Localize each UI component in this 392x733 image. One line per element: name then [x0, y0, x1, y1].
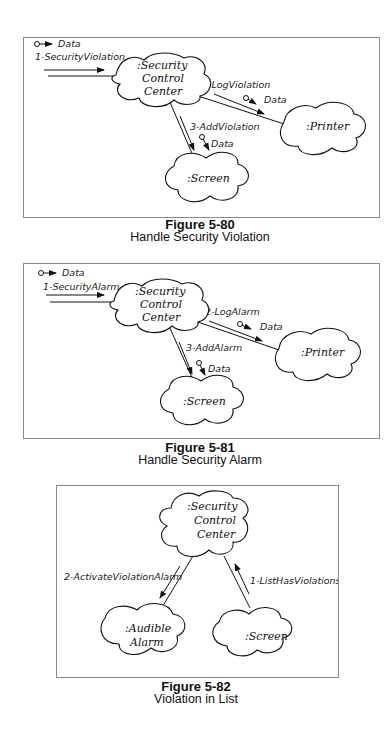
figure-5-82-diagram: 2-ActivateViolationAlarm 1-ListHasViolat…: [56, 485, 339, 678]
message-label-3: 3-AddViolation: [190, 121, 260, 132]
message-label-1: 1-SecurityViolation: [35, 51, 125, 62]
figure-5-81-caption: Figure 5-81 Handle Security Alarm: [100, 441, 300, 467]
svg-text::Screen: :Screen: [187, 172, 230, 185]
data-flow-icon: [35, 42, 53, 47]
message-label-2: 2-LogViolation: [202, 79, 270, 90]
svg-text::Audible: :Audible: [125, 622, 172, 635]
svg-text:Data: Data: [62, 267, 85, 278]
svg-text:Alarm: Alarm: [129, 636, 164, 649]
message-label-2: 2-LogAlarm: [205, 306, 260, 317]
svg-text::Printer: :Printer: [301, 346, 345, 359]
svg-text:Center: Center: [144, 85, 183, 98]
data-label: Data: [58, 38, 81, 49]
svg-text:Control: Control: [194, 514, 236, 527]
figure-5-81-diagram: Data 1-SecurityAlarm Data Data 2-LogAlar…: [23, 263, 380, 439]
svg-text:Control: Control: [140, 298, 182, 311]
svg-text::Security: :Security: [137, 59, 188, 72]
svg-text::Security: :Security: [187, 500, 238, 513]
svg-text:Data: Data: [208, 363, 231, 374]
svg-text:Center: Center: [142, 311, 181, 324]
data-flow-icon: [39, 271, 57, 276]
svg-text:Control: Control: [142, 72, 184, 85]
svg-text:Center: Center: [197, 528, 236, 541]
message-label-3: 3-AddAlarm: [186, 342, 242, 353]
svg-text:Data: Data: [211, 138, 234, 149]
svg-text::Security: :Security: [135, 285, 186, 298]
svg-text:Data: Data: [264, 94, 287, 105]
svg-text::Screen: :Screen: [245, 630, 288, 643]
message-label-1: 1-ListHasViolations: [250, 575, 338, 586]
svg-text::Screen: :Screen: [183, 395, 226, 408]
figure-5-80-caption: Figure 5-80 Handle Security Violation: [100, 218, 300, 244]
svg-text:Data: Data: [260, 321, 283, 332]
figure-title: Handle Security Violation: [100, 231, 300, 244]
figure-5-82-caption: Figure 5-82 Violation in List: [96, 680, 296, 706]
message-label-1: 1-SecurityAlarm: [43, 281, 120, 292]
message-label-2: 2-ActivateViolationAlarm: [64, 571, 182, 582]
svg-text::Printer: :Printer: [306, 120, 350, 133]
figure-5-80-diagram: Data 1-SecurityViolation Data Data 2-Log…: [23, 37, 380, 218]
